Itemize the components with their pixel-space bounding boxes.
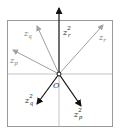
label-z-q-squared: z2q (24, 93, 34, 107)
vector-z-p (13, 50, 59, 74)
origin-label: O (53, 81, 60, 90)
label-z-p: zp (9, 56, 18, 67)
vector-z-q (37, 26, 59, 74)
vector-z-p-squared (59, 74, 81, 106)
origin-point (57, 72, 61, 76)
label-z-r-squared: z2r (62, 25, 71, 38)
label-z-r: zr (98, 33, 106, 43)
complex-plane-diagram: O zp zq zr z2r z2q z2p (0, 0, 122, 138)
label-z-p-squared: z2p (73, 107, 83, 121)
label-z-q: zq (23, 29, 32, 40)
